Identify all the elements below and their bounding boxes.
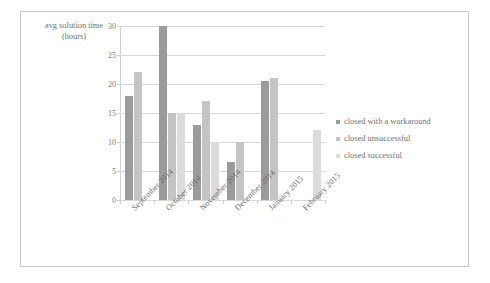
- y-tick-label: 30: [108, 22, 116, 31]
- bar-groups: [121, 26, 325, 200]
- x-tick-mark: [257, 200, 258, 204]
- legend-item-label: closed with a workaround: [344, 117, 431, 126]
- x-tick-mark: [325, 200, 326, 204]
- y-tick-mark: [117, 26, 120, 27]
- y-axis-title-line-2: (hours): [26, 31, 122, 42]
- x-tick-mark: [120, 200, 121, 204]
- x-tick-mark: [154, 200, 155, 204]
- y-tick-mark: [117, 171, 120, 172]
- y-tick-label: 10: [108, 138, 116, 147]
- legend-swatch-icon: [336, 137, 340, 141]
- legend-swatch-icon: [336, 120, 340, 124]
- bar-group: [291, 26, 325, 200]
- bar: [270, 78, 278, 200]
- y-tick-label: 15: [108, 109, 116, 118]
- bar: [134, 72, 142, 200]
- bar: [125, 96, 133, 200]
- legend-item-label: closed unsuccessful: [344, 134, 410, 143]
- y-tick-label: 5: [112, 167, 116, 176]
- bar: [168, 113, 176, 200]
- bar-group: [121, 26, 155, 200]
- chart-figure: avg solution time (hours) 302520151050 S…: [0, 0, 490, 283]
- y-tick-mark: [117, 55, 120, 56]
- legend-item[interactable]: closed unsuccessful: [336, 130, 431, 147]
- y-tick-mark: [117, 142, 120, 143]
- legend-item[interactable]: closed with a workaround: [336, 113, 431, 130]
- x-tick-mark: [223, 200, 224, 204]
- y-tick-label: 20: [108, 80, 116, 89]
- y-tick-label: 25: [108, 51, 116, 60]
- y-tick-label: 0: [112, 196, 116, 205]
- chart-legend: closed with a workaroundclosed unsuccess…: [336, 113, 431, 164]
- x-tick-mark: [291, 200, 292, 204]
- bar: [193, 125, 201, 200]
- y-tick-mark: [117, 113, 120, 114]
- legend-swatch-icon: [336, 154, 340, 158]
- x-tick-mark: [188, 200, 189, 204]
- legend-item[interactable]: closed successful: [336, 147, 431, 164]
- bar-group: [189, 26, 223, 200]
- bar: [202, 101, 210, 200]
- plot-area: 302520151050: [120, 26, 325, 200]
- y-tick-mark: [117, 84, 120, 85]
- legend-item-label: closed successful: [344, 151, 402, 160]
